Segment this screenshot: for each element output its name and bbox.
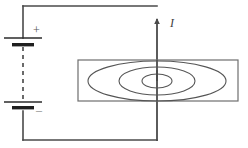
positive-terminal-label: + (33, 24, 40, 36)
negative-terminal-label: – (36, 104, 42, 116)
current-arrow-icon (154, 18, 160, 24)
magnetic-field-diagram: + – I (0, 0, 248, 148)
current-label: I (170, 17, 174, 29)
battery-plate-negative-top (12, 43, 34, 46)
battery-cell-top (4, 38, 42, 46)
battery-plate-negative-bottom (12, 106, 34, 109)
